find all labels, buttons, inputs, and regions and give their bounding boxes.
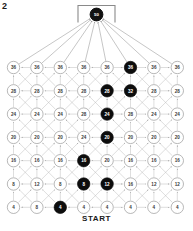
lattice-edge [89, 190, 102, 203]
lattice-node: 20 [31, 131, 43, 143]
lattice-edge [89, 166, 102, 179]
node-value: 16 [81, 158, 87, 163]
lattice-node: 20 [7, 131, 19, 143]
lattice-node: 28 [31, 85, 43, 97]
lattice-edge [19, 73, 32, 86]
node-value: 8 [59, 182, 62, 187]
lattice-edge [112, 120, 125, 133]
lattice-node: 36 [101, 61, 113, 73]
lattice-node: 4 [78, 201, 90, 213]
lattice-edge [66, 73, 79, 86]
lattice-node: 28 [124, 108, 136, 120]
lattice-edge [113, 96, 126, 109]
lattice-node: 16 [31, 155, 43, 167]
lattice-edge [135, 190, 148, 203]
lattice-edge [65, 166, 78, 179]
lattice-node: 4 [171, 201, 183, 213]
lattice-node-highlighted: 20 [101, 131, 113, 143]
lattice-edge [42, 73, 55, 86]
lattice-node: 20 [171, 131, 183, 143]
node-value: 28 [34, 89, 40, 94]
lattice-node-highlighted: 16 [78, 155, 90, 167]
goal-edge [102, 20, 149, 63]
lattice-edge [159, 96, 172, 109]
node-value: 24 [175, 112, 181, 117]
node-value: 16 [58, 158, 64, 163]
node-value: 32 [128, 89, 134, 94]
lattice-edge [89, 120, 102, 133]
lattice-figure: 2 50 36363636363636362828282828322828242… [0, 0, 193, 231]
node-value: 4 [106, 205, 109, 210]
goal-edge [103, 19, 172, 64]
lattice-node: 28 [171, 85, 183, 97]
lattice-edge [159, 120, 172, 133]
lattice-edge [159, 190, 172, 203]
node-value: 24 [58, 112, 64, 117]
lattice-node: 20 [54, 131, 66, 143]
node-value: 20 [34, 135, 40, 140]
node-value: 20 [151, 135, 157, 140]
lattice-node: 36 [171, 61, 183, 73]
node-value: 20 [58, 135, 64, 140]
lattice-node: 36 [78, 61, 90, 73]
lattice-edge [159, 120, 172, 133]
node-value: 4 [59, 205, 62, 210]
lattice-edge [65, 143, 78, 156]
lattice-node: 16 [124, 155, 136, 167]
node-value: 20 [105, 158, 111, 163]
node-value: 12 [151, 182, 157, 187]
goal-node-value: 50 [94, 12, 99, 17]
lattice-node: 28 [7, 85, 19, 97]
node-value: 36 [81, 65, 87, 70]
lattice-edge [89, 143, 102, 156]
lattice-edge [112, 190, 125, 203]
lattice-node: 12 [171, 178, 183, 190]
node-value: 36 [105, 65, 111, 70]
lattice-node: 28 [148, 85, 160, 97]
lattice-edge [65, 120, 78, 133]
lattice-edge [65, 96, 78, 109]
lattice-node-highlighted: 36 [124, 61, 136, 73]
lattice-edge [18, 166, 31, 179]
lattice-edge [89, 96, 102, 109]
lattice-edge [113, 143, 126, 156]
lattice-node: 4 [101, 201, 113, 213]
lattice-edge [18, 73, 31, 86]
goal-edge [98, 22, 106, 61]
node-value: 4 [82, 205, 85, 210]
node-value: 4 [153, 205, 156, 210]
node-value: 12 [34, 182, 40, 187]
lattice-edge [89, 166, 102, 179]
node-value: 28 [151, 89, 157, 94]
lattice-node: 28 [78, 85, 90, 97]
lattice-node: 36 [7, 61, 19, 73]
lattice-graph-svg: 50 3636363636363636282828282832282824242… [0, 0, 193, 231]
lattice-edge [136, 166, 149, 179]
lattice-node: 24 [7, 108, 19, 120]
lattice-edge [112, 96, 125, 109]
node-value: 8 [82, 182, 85, 187]
lattice-edge [159, 73, 172, 86]
node-value: 20 [128, 135, 134, 140]
lattice-edge [19, 96, 32, 109]
node-value: 24 [11, 112, 17, 117]
node-value: 8 [36, 205, 39, 210]
lattice-edge [89, 73, 102, 86]
node-value: 28 [81, 89, 87, 94]
lattice-edge [159, 190, 172, 203]
start-label: START [0, 214, 193, 223]
lattice-node: 8 [7, 178, 19, 190]
lattice-node: 16 [124, 178, 136, 190]
lattice-edge [159, 143, 172, 156]
lattice-edge [113, 120, 126, 133]
node-value: 20 [175, 135, 181, 140]
lattice-node-highlighted: 24 [101, 108, 113, 120]
lattice-edge [19, 166, 32, 179]
lattice-node-highlighted: 4 [54, 201, 66, 213]
lattice-edge [136, 73, 149, 86]
lattice-edge [136, 190, 149, 203]
node-value: 36 [58, 65, 64, 70]
node-value: 4 [176, 205, 179, 210]
node-value: 36 [11, 65, 17, 70]
lattice-node-highlighted: 12 [101, 178, 113, 190]
